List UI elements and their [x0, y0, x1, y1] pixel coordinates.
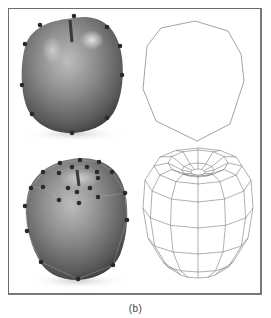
control-point	[29, 186, 34, 191]
control-point	[41, 185, 46, 190]
control-point	[30, 112, 35, 117]
control-point	[118, 44, 123, 49]
control-point	[70, 165, 75, 170]
control-point	[123, 191, 128, 196]
control-point	[85, 165, 90, 170]
control-point	[23, 42, 28, 47]
control-point	[25, 229, 30, 234]
control-point	[66, 186, 71, 191]
control-point	[97, 160, 102, 165]
control-point	[105, 116, 110, 121]
control-point	[77, 201, 82, 206]
control-point	[125, 218, 130, 223]
control-point	[88, 186, 93, 191]
control-point	[78, 158, 83, 163]
control-point	[58, 161, 63, 166]
control-point	[105, 25, 110, 30]
control-point	[95, 170, 100, 175]
control-point	[110, 170, 115, 175]
control-point	[20, 83, 25, 88]
silhouette-polygon	[143, 21, 244, 141]
apple-photo-top	[22, 17, 124, 142]
control-point	[72, 14, 77, 19]
apple-photo-bottom	[25, 158, 128, 289]
control-point	[96, 176, 101, 181]
control-point	[57, 171, 62, 176]
apple-stem	[77, 170, 79, 186]
control-point	[96, 195, 101, 200]
control-point	[120, 73, 125, 78]
apple-stem	[70, 20, 72, 42]
figure-canvas	[0, 0, 271, 318]
control-point	[39, 260, 44, 265]
control-point	[41, 170, 46, 175]
control-point	[38, 23, 43, 28]
control-point	[76, 277, 81, 282]
apple-wireframe-mesh	[143, 148, 253, 278]
figure-caption: (b)	[0, 303, 271, 314]
control-point	[23, 204, 28, 209]
control-point	[75, 190, 80, 195]
control-point	[70, 131, 75, 136]
control-point	[111, 263, 116, 268]
control-point	[57, 198, 62, 203]
